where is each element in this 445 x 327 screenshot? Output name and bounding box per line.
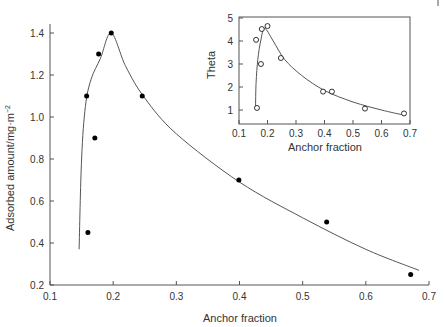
data-point: [408, 272, 413, 277]
y-tick-label: 4: [227, 36, 233, 47]
data-point: [96, 52, 101, 57]
data-point: [259, 27, 264, 32]
data-point: [92, 136, 97, 141]
fit-curve-path: [256, 28, 402, 114]
data-point: [236, 178, 241, 183]
x-tick-label: 0.7: [403, 128, 417, 139]
y-tick-label: 2: [227, 82, 233, 93]
x-tick-label: 0.4: [233, 291, 247, 302]
main-axes: 0.10.20.30.40.50.60.70.20.40.60.81.01.21…: [30, 24, 436, 302]
data-point: [254, 37, 259, 42]
data-point: [278, 56, 283, 61]
data-point: [85, 230, 90, 235]
main-fit-curve: [79, 33, 419, 270]
data-point: [402, 111, 407, 116]
x-tick-label: 0.5: [346, 128, 360, 139]
x-tick-label: 0.4: [318, 128, 332, 139]
x-tick-label: 0.6: [359, 291, 373, 302]
inset-x-axis-label: Anchor fraction: [288, 141, 362, 153]
main-y-axis-label: Adsorbed amount/mg·m−2: [4, 105, 16, 231]
y-tick-label: 1: [227, 105, 233, 116]
data-point: [362, 106, 367, 111]
main-data-points: [84, 31, 413, 278]
data-point: [258, 62, 263, 67]
data-point: [109, 31, 114, 36]
x-tick-label: 0.2: [106, 291, 120, 302]
main-x-axis-label: Anchor fraction: [203, 312, 277, 324]
y-tick-label: 1.4: [30, 28, 44, 39]
x-tick-label: 0.2: [261, 128, 275, 139]
inset-frame: [239, 17, 410, 124]
x-tick-label: 0.3: [289, 128, 303, 139]
data-point: [140, 94, 145, 99]
inset-axes: 0.10.20.30.40.50.60.712345: [227, 13, 417, 139]
y-tick-label: 0.6: [30, 196, 44, 207]
inset-fit-curve: [256, 28, 402, 114]
x-tick-label: 0.1: [43, 291, 57, 302]
x-tick-label: 0.6: [375, 128, 389, 139]
x-tick-label: 0.7: [422, 291, 436, 302]
data-point: [321, 89, 326, 94]
x-tick-label: 0.5: [296, 291, 310, 302]
x-tick-label: 0.3: [169, 291, 183, 302]
data-point: [254, 105, 259, 110]
y-tick-label: 3: [227, 59, 233, 70]
chart-canvas: 0.10.20.30.40.50.60.70.20.40.60.81.01.21…: [0, 0, 445, 327]
y-tick-label: 1.0: [30, 112, 44, 123]
y-tick-label: 0.2: [30, 280, 44, 291]
data-point: [329, 89, 334, 94]
data-point: [84, 94, 89, 99]
fit-curve-path: [79, 33, 419, 270]
inset-data-points: [254, 24, 407, 116]
y-tick-label: 0.8: [30, 154, 44, 165]
data-point: [265, 24, 270, 29]
inset-y-axis-label: Theta: [205, 50, 217, 79]
y-tick-label: 1.2: [30, 70, 44, 81]
y-tick-label: 0.4: [30, 238, 44, 249]
data-point: [324, 220, 329, 225]
y-tick-label: 5: [227, 13, 233, 24]
x-tick-label: 0.1: [232, 128, 246, 139]
